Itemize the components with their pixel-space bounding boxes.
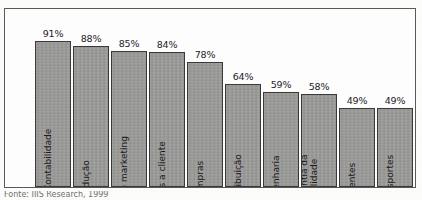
bar-value-label: 58% bbox=[301, 81, 337, 92]
bar-rect: Clientes bbox=[339, 108, 375, 187]
bar-value-label: 64% bbox=[225, 71, 261, 82]
bar-rect: Serviços a cliente bbox=[149, 52, 185, 187]
bar-category-label: Clientes bbox=[347, 163, 357, 187]
bar-value-label: 91% bbox=[35, 28, 71, 39]
bar-category-label: Serviços a cliente bbox=[157, 141, 167, 187]
bar-chart-plot-area: 91% Finanças/Contabilidade 88% Produção … bbox=[35, 19, 411, 187]
bar-category-label: Produção bbox=[81, 160, 91, 187]
bar-value-label: 85% bbox=[111, 38, 147, 49]
bar-rect: Compras bbox=[187, 62, 223, 187]
bar-rect: Engenharia bbox=[263, 92, 299, 187]
chart-frame: 91% Finanças/Contabilidade 88% Produção … bbox=[4, 8, 416, 188]
bar-value-label: 88% bbox=[73, 33, 109, 44]
bar-category-label: Vendas e marketing bbox=[119, 136, 129, 187]
bar-value-label: 59% bbox=[263, 79, 299, 90]
bar-rect: Vendas e marketing bbox=[111, 51, 147, 187]
source-caption-text: Fonte: IIIS Research, 1999 bbox=[4, 191, 108, 199]
bar-category-label: Finanças/Contabilidade bbox=[43, 129, 53, 187]
figure-page: 91% Finanças/Contabilidade 88% Produção … bbox=[0, 0, 422, 200]
source-caption: Fonte: IIIS Research, 1999 bbox=[4, 191, 304, 200]
bar-category-label: Garantia da qualidade bbox=[301, 152, 319, 187]
bar-category-label: Distribuição bbox=[233, 154, 243, 187]
bar-rect: Finanças/Contabilidade bbox=[35, 41, 71, 187]
bar-value-label: 78% bbox=[187, 49, 223, 60]
bar-category-label: Engenharia bbox=[271, 155, 281, 187]
bar-category-label: Compras bbox=[195, 161, 205, 187]
bar-rect: Transportes bbox=[377, 108, 413, 187]
bar-category-label: Transportes bbox=[385, 155, 395, 187]
bar-value-label: 84% bbox=[149, 39, 185, 50]
bar-value-label: 49% bbox=[339, 95, 375, 106]
bar-rect: Produção bbox=[73, 46, 109, 187]
bar-rect: Distribuição bbox=[225, 84, 261, 187]
bar-value-label: 49% bbox=[377, 95, 413, 106]
bar-rect: Garantia da qualidade bbox=[301, 94, 337, 187]
